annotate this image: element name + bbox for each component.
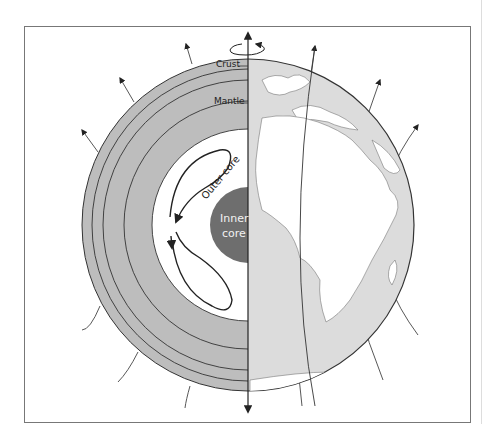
mantle-label: Mantle (214, 96, 245, 106)
inner-core-label-line1: Inner (220, 212, 249, 225)
field-line-arrow-icon (120, 78, 134, 102)
inner-core-label-line2: core (222, 227, 246, 240)
earth-diagram: Crust Mantle Outer core Inner core (0, 0, 485, 445)
field-line-arrow-icon (186, 44, 192, 64)
crust-label: Crust (216, 59, 240, 69)
rotation-arrow-icon (230, 44, 264, 55)
field-line-arrow-icon (82, 130, 98, 152)
